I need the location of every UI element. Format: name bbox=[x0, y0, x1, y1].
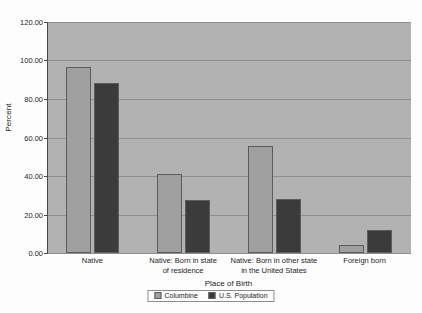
y-axis-tick-mark bbox=[44, 60, 47, 61]
bar-group bbox=[139, 22, 230, 253]
bar-1-3 bbox=[367, 230, 392, 253]
legend-swatch-icon bbox=[209, 292, 216, 299]
bar-chart-figure: Percent 0.0020.0040.0060.0080.00100.0012… bbox=[0, 0, 422, 313]
bar-group bbox=[320, 22, 411, 253]
bar-0-1 bbox=[157, 174, 182, 253]
y-axis-tick-label: 0.00 bbox=[28, 249, 43, 258]
legend-entry[interactable]: Columbine bbox=[154, 292, 197, 299]
y-axis-tick-label: 40.00 bbox=[24, 171, 43, 180]
bar-group bbox=[230, 22, 321, 253]
y-axis-tick-mark bbox=[44, 253, 47, 254]
y-axis-tick-mark bbox=[44, 22, 47, 23]
bar-0-3 bbox=[339, 245, 364, 253]
chart-legend: ColumbineU.S. Population bbox=[147, 290, 274, 302]
y-axis-tick-mark bbox=[44, 99, 47, 100]
bar-1-1 bbox=[185, 200, 210, 254]
bar-0-2 bbox=[248, 146, 273, 253]
y-axis-title: Percent bbox=[4, 88, 13, 148]
x-axis-tick-label-line: of residence bbox=[139, 266, 228, 276]
x-axis-title: Place of Birth bbox=[47, 279, 410, 288]
y-axis-tick-mark bbox=[44, 215, 47, 216]
gridline bbox=[48, 253, 411, 254]
plot-area: 0.0020.0040.0060.0080.00100.00120.00 bbox=[47, 22, 411, 254]
bar-group bbox=[48, 22, 139, 253]
y-axis-tick-label: 120.00 bbox=[20, 18, 43, 27]
x-axis-tick-label-line: Foreign born bbox=[320, 256, 409, 266]
legend-label: U.S. Population bbox=[219, 292, 268, 299]
y-axis-tick-mark bbox=[44, 138, 47, 139]
x-axis-tick-label-line: in the United States bbox=[230, 266, 319, 276]
bar-1-0 bbox=[94, 83, 119, 253]
y-axis-tick-mark bbox=[44, 176, 47, 177]
x-axis-category-labels: NativeNative: Born in stateof residenceN… bbox=[47, 256, 410, 275]
x-axis-tick-label: Native: Born in stateof residence bbox=[138, 256, 229, 275]
x-axis-tick-label: Native: Born in other statein the United… bbox=[229, 256, 320, 275]
y-axis-tick-label: 60.00 bbox=[24, 133, 43, 142]
legend-label: Columbine bbox=[164, 292, 197, 299]
y-axis-tick-label: 100.00 bbox=[20, 56, 43, 65]
x-axis-tick-label-line: Native: Born in state bbox=[139, 256, 228, 266]
legend-entry[interactable]: U.S. Population bbox=[209, 292, 268, 299]
bar-0-0 bbox=[66, 67, 91, 253]
legend-swatch-icon bbox=[154, 292, 161, 299]
x-axis-tick-label: Foreign born bbox=[319, 256, 410, 275]
bar-1-2 bbox=[276, 199, 301, 253]
x-axis-tick-label-line: Native: Born in other state bbox=[230, 256, 319, 266]
y-axis-tick-label: 80.00 bbox=[24, 94, 43, 103]
bars-layer bbox=[48, 22, 411, 253]
y-axis-tick-label: 20.00 bbox=[24, 210, 43, 219]
x-axis-tick-label: Native bbox=[47, 256, 138, 275]
x-axis-tick-label-line: Native bbox=[48, 256, 137, 266]
